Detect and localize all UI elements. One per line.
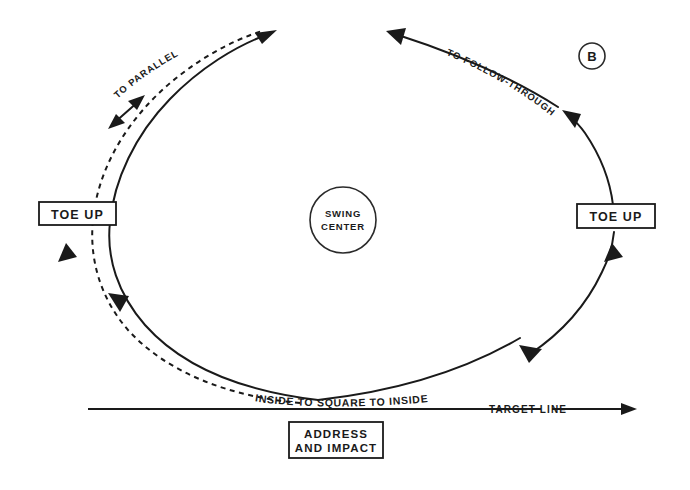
address-impact-line2: AND IMPACT xyxy=(295,442,377,454)
panel-letter-text: B xyxy=(587,49,596,64)
swing-center-marker: SWING CENTER xyxy=(310,187,376,253)
swing-diagram-canvas: SWING CENTER B TOE UP TOE UP ADDRESS AND… xyxy=(0,0,690,490)
to-followthrough-label: TO FOLLOW-THROUGH xyxy=(445,47,557,119)
followthrough-right-arrow-head xyxy=(604,243,623,262)
target-line-arrow-head xyxy=(621,403,637,415)
swing-center-line2: CENTER xyxy=(321,221,365,232)
toe-up-left-box: TOE UP xyxy=(39,202,116,225)
to-parallel-label: TO PARALLEL xyxy=(111,47,180,100)
to-parallel-label-textpath: TO PARALLEL xyxy=(111,47,180,100)
swing-center-circle xyxy=(310,187,376,253)
followthrough-top-arrow-head xyxy=(386,28,406,45)
followthrough-solid-arc-group xyxy=(318,110,623,400)
backswing-solid-arc xyxy=(109,35,318,400)
address-impact-line1: ADDRESS xyxy=(304,428,368,440)
toe-up-left-label: TOE UP xyxy=(51,208,104,222)
downswing-left-arrow-head xyxy=(108,293,129,312)
parallel-double-arrow xyxy=(108,95,145,129)
backswing-left-arrow-head xyxy=(58,243,77,262)
backswing-solid-arc-group xyxy=(109,30,318,400)
panel-letter-marker: B xyxy=(579,43,605,69)
toe-up-right-label: TOE UP xyxy=(590,210,643,224)
swing-center-line1: SWING xyxy=(325,208,361,219)
to-followthrough-label-textpath: TO FOLLOW-THROUGH xyxy=(445,47,557,119)
downswing-solid-arc xyxy=(318,338,520,400)
address-impact-box: ADDRESS AND IMPACT xyxy=(289,422,383,458)
toe-up-right-box: TOE UP xyxy=(577,204,655,228)
swing-diagram-svg: SWING CENTER B TOE UP TOE UP ADDRESS AND… xyxy=(0,0,690,490)
target-line-label: TARGET LINE xyxy=(489,404,567,415)
downswing-solid-arc-2 xyxy=(530,232,614,354)
followthrough-solid-arc xyxy=(570,117,613,205)
